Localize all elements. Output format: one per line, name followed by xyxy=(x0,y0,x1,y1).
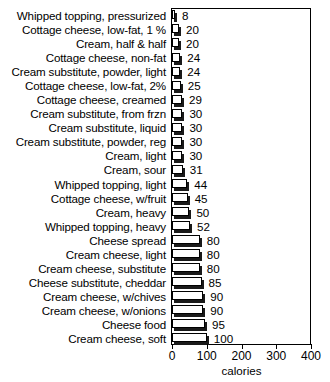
category-label: Cottage cheese, creamed xyxy=(37,92,166,107)
bar xyxy=(172,193,192,204)
category-label: Cream, light xyxy=(105,148,166,163)
bar xyxy=(172,333,211,344)
value-label: 90 xyxy=(210,303,223,318)
value-label: 29 xyxy=(189,92,202,107)
value-label: 8 xyxy=(182,8,188,23)
category-label: Cream cheese, light xyxy=(66,247,166,262)
bar xyxy=(172,24,183,35)
category-label: Cream, heavy xyxy=(96,205,166,220)
bar-face xyxy=(172,263,200,272)
category-label: Cream cheese, w/onions xyxy=(42,303,166,318)
bar xyxy=(172,151,186,162)
bar xyxy=(172,179,191,190)
bar xyxy=(172,137,186,148)
value-label: 80 xyxy=(207,261,220,276)
value-label: 85 xyxy=(209,275,222,290)
category-label: Cream substitute, powder, reg xyxy=(16,134,166,149)
bar-face xyxy=(172,333,207,342)
category-label: Cream, sour xyxy=(104,162,166,177)
value-label: 30 xyxy=(189,120,202,135)
bar-face xyxy=(172,38,179,47)
value-label: 24 xyxy=(187,64,200,79)
category-label: Cream substitute, powder, light xyxy=(11,64,166,79)
value-label: 45 xyxy=(195,191,208,206)
bar-face xyxy=(172,235,200,244)
category-label: Whipped topping, heavy xyxy=(45,219,166,234)
bar xyxy=(172,291,207,302)
category-label: Cheese spread xyxy=(89,233,166,248)
bar xyxy=(172,109,186,120)
value-label: 30 xyxy=(189,106,202,121)
bar xyxy=(172,10,179,21)
bar-face xyxy=(172,277,202,286)
category-label: Cream cheese, substitute xyxy=(38,261,166,276)
value-label: 24 xyxy=(187,50,200,65)
bar-face xyxy=(172,81,181,90)
value-label: 50 xyxy=(196,205,209,220)
bar-rows: Whipped topping, pressurized8Cottage che… xyxy=(0,8,330,345)
value-label: 95 xyxy=(212,317,225,332)
bar-face xyxy=(172,165,183,174)
bar-face xyxy=(172,95,182,104)
value-label: 31 xyxy=(190,162,203,177)
bar-face xyxy=(172,221,190,230)
value-label: 80 xyxy=(207,247,220,262)
bar xyxy=(172,165,187,176)
bar xyxy=(172,123,186,134)
bar-face xyxy=(172,179,187,188)
bar-face xyxy=(172,24,179,33)
bar xyxy=(172,277,206,288)
bar xyxy=(172,305,207,316)
bar xyxy=(172,221,194,232)
category-label: Cream, half & half xyxy=(76,36,166,51)
value-label: 20 xyxy=(186,36,199,51)
bar-face xyxy=(172,305,203,314)
bar-face xyxy=(172,137,182,146)
bar xyxy=(172,53,184,64)
category-label: Whipped topping, light xyxy=(55,177,166,192)
bar xyxy=(172,207,193,218)
value-label: 90 xyxy=(210,289,223,304)
bar xyxy=(172,95,186,106)
bar xyxy=(172,319,209,330)
category-label: Cream cheese, soft xyxy=(68,331,166,346)
bar-face xyxy=(172,249,200,258)
bar-face xyxy=(172,319,205,328)
category-label: Cream cheese, w/chives xyxy=(43,289,166,304)
category-label: Cottage cheese, w/fruit xyxy=(51,191,166,206)
value-label: 30 xyxy=(189,148,202,163)
bar xyxy=(172,235,204,246)
bar xyxy=(172,81,185,92)
bar xyxy=(172,249,204,260)
x-axis-title: calories xyxy=(171,364,312,378)
value-label: 52 xyxy=(197,219,210,234)
value-label: 30 xyxy=(189,134,202,149)
category-label: Cottage cheese, low-fat, 1 % xyxy=(22,22,166,37)
bar-face xyxy=(172,53,180,62)
value-label: 25 xyxy=(188,78,201,93)
bar-face xyxy=(172,123,182,132)
value-label: 20 xyxy=(186,22,199,37)
category-label: Cream substitute, liquid xyxy=(48,120,166,135)
value-label: 44 xyxy=(194,177,207,192)
category-label: Cottage cheese, low-fat, 2% xyxy=(25,78,166,93)
category-label: Cream substitute, from frzn xyxy=(30,106,166,121)
bar xyxy=(172,67,184,78)
category-label: Cheese substitute, cheddar xyxy=(29,275,166,290)
bar xyxy=(172,263,204,274)
bar xyxy=(172,38,183,49)
bar-face xyxy=(172,151,182,160)
x-tick-label: 400 xyxy=(291,349,330,364)
calories-bar-chart: Whipped topping, pressurized8Cottage che… xyxy=(0,0,330,382)
bar-face xyxy=(172,207,189,216)
bar-face xyxy=(172,291,203,300)
category-label: Cheese food xyxy=(102,317,166,332)
category-label: Whipped topping, pressurized xyxy=(17,8,166,23)
bar-face xyxy=(172,10,175,19)
bar-face xyxy=(172,109,182,118)
bar-face xyxy=(172,193,188,202)
category-label: Cottage cheese, non-fat xyxy=(46,50,166,65)
bar-face xyxy=(172,67,180,76)
value-label: 80 xyxy=(207,233,220,248)
